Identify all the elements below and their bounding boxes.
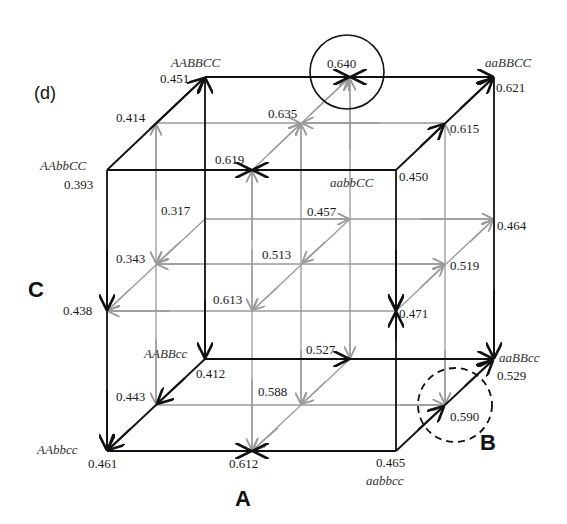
node-value: 0.613 xyxy=(213,292,242,307)
solid-highlight-circle xyxy=(310,35,384,109)
node-value: 0.621 xyxy=(496,80,525,95)
node-value: 0.343 xyxy=(116,251,145,266)
node-value: 0.461 xyxy=(88,456,117,471)
node-value: 0.451 xyxy=(160,71,189,86)
axis-label-b: B xyxy=(480,430,496,455)
genotype-aabbcc: aabbcc xyxy=(366,473,404,488)
genotype-AAbbcc: AAbbcc xyxy=(36,442,78,457)
node-value: 0.443 xyxy=(116,389,145,404)
node-value: 0.619 xyxy=(215,152,244,167)
node-value: 0.615 xyxy=(450,121,479,136)
node-value: 0.465 xyxy=(376,455,405,470)
genotype-AABBCC: AABBCC xyxy=(170,55,220,70)
genotype-aaBBCC: aaBBCC xyxy=(485,55,532,70)
node-value: 0.513 xyxy=(262,247,291,262)
fitness-landscape-cube: (d) C A B AABBCC aaBBCC AAbbCC aabbCC AA… xyxy=(0,0,567,524)
genotype-aaBBcc: aaBBcc xyxy=(499,350,540,365)
node-value: 0.640 xyxy=(327,56,356,71)
node-value: 0.464 xyxy=(497,218,527,233)
genotype-aabbCC: aabbCC xyxy=(330,175,374,190)
panel-label: (d) xyxy=(34,83,56,103)
node-value: 0.590 xyxy=(450,409,479,424)
node-value: 0.519 xyxy=(450,258,479,273)
node-value: 0.588 xyxy=(258,384,287,399)
genotype-AAbbCC: AAbbCC xyxy=(39,158,87,173)
node-value: 0.529 xyxy=(497,368,526,383)
node-value: 0.527 xyxy=(306,342,336,357)
genotype-AABBcc: AABBcc xyxy=(143,346,188,361)
node-value: 0.612 xyxy=(229,456,258,471)
node-value: 0.635 xyxy=(268,106,297,121)
node-value: 0.450 xyxy=(399,169,428,184)
node-value: 0.317 xyxy=(161,203,191,218)
node-value: 0.414 xyxy=(116,110,146,125)
node-value: 0.471 xyxy=(399,306,428,321)
node-value: 0.412 xyxy=(196,366,225,381)
node-value: 0.393 xyxy=(64,177,93,192)
node-value: 0.438 xyxy=(63,303,92,318)
node-value: 0.457 xyxy=(307,204,337,219)
axis-label-c: C xyxy=(28,277,44,302)
axis-label-a: A xyxy=(235,486,251,511)
